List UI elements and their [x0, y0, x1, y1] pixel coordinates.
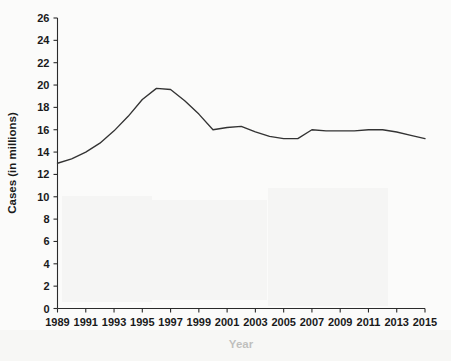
- y-tick-label: 22: [37, 57, 49, 69]
- x-tick-label: 1997: [158, 316, 182, 328]
- x-tick-label: 2015: [413, 316, 437, 328]
- y-axis-title: Cases (in millions): [6, 112, 18, 214]
- y-tick-label: 24: [37, 34, 50, 46]
- x-tick-label: 2011: [357, 316, 381, 328]
- y-tick-label: 26: [37, 12, 49, 24]
- y-tick-label: 4: [43, 258, 50, 270]
- x-tick-label: 2003: [243, 316, 267, 328]
- x-axis-ticks: 1989199119931995199719992001200320052007…: [45, 309, 437, 328]
- x-tick-label: 1989: [45, 316, 69, 328]
- y-tick-label: 6: [43, 235, 49, 247]
- x-axis-title: Year: [229, 338, 254, 350]
- y-tick-label: 20: [37, 79, 49, 91]
- y-tick-label: 8: [43, 213, 49, 225]
- x-tick-label: 1991: [74, 316, 98, 328]
- x-tick-label: 2005: [271, 316, 295, 328]
- chart-figure: 02468101214161820222426 1989199119931995…: [0, 0, 451, 361]
- y-tick-label: 12: [37, 168, 49, 180]
- x-axis: 1989199119931995199719992001200320052007…: [45, 309, 437, 328]
- x-tick-label: 2009: [328, 316, 352, 328]
- x-tick-label: 2013: [384, 316, 408, 328]
- y-tick-label: 14: [37, 146, 50, 158]
- y-tick-label: 2: [43, 280, 49, 292]
- y-tick-label: 0: [43, 303, 49, 315]
- line-chart: 02468101214161820222426 1989199119931995…: [0, 0, 451, 361]
- x-tick-label: 1993: [102, 316, 126, 328]
- y-tick-label: 18: [37, 101, 49, 113]
- y-tick-label: 10: [37, 191, 49, 203]
- y-axis-ticks: 02468101214161820222426: [37, 12, 57, 315]
- x-tick-label: 2007: [300, 316, 324, 328]
- x-tick-label: 1995: [130, 316, 154, 328]
- x-tick-label: 2001: [215, 316, 239, 328]
- y-axis: 02468101214161820222426: [37, 12, 57, 315]
- data-series-line: [58, 88, 426, 163]
- x-tick-label: 1999: [187, 316, 211, 328]
- y-tick-label: 16: [37, 124, 49, 136]
